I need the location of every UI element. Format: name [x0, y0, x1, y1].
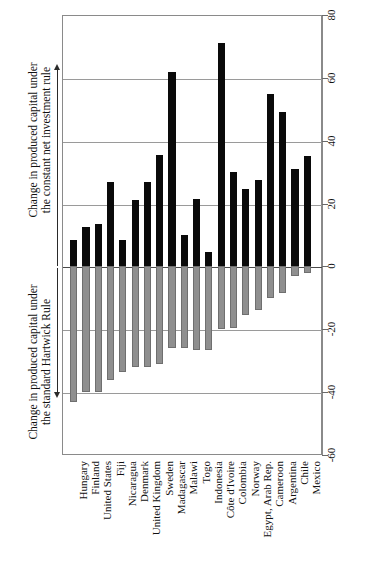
y-axis-tick-label-wrap: 40 [331, 141, 332, 142]
bar-negative [291, 266, 298, 275]
y-axis-tick-label: -40 [325, 385, 337, 400]
bar-group [82, 15, 89, 455]
bar-negative [144, 266, 151, 367]
bar-group [70, 15, 77, 455]
category-label-wrap: Indonesia [213, 461, 214, 462]
bar-negative [242, 266, 249, 315]
y-axis-title-bottom-line1: Change in produced capital under [27, 284, 39, 439]
bar-negative [82, 266, 89, 392]
bar-positive [107, 182, 114, 267]
bar-group [242, 15, 249, 455]
bar-negative [230, 266, 237, 327]
category-label: Indonesia [213, 461, 224, 504]
category-label: Nicaragua [127, 461, 138, 506]
y-axis-tick-label-wrap: 80 [331, 15, 332, 16]
bar-negative [107, 266, 114, 379]
bar-negative [218, 266, 225, 329]
y-axis-title-bottom-line2: the standard Hartwick Rule [40, 284, 53, 439]
category-label-wrap: United States [102, 461, 103, 462]
category-label-wrap: Chile [299, 461, 300, 462]
category-label-wrap: Côte d'Ivoire [225, 461, 226, 462]
bar-group [291, 15, 298, 455]
y-axis-title-bottom: Change in produced capital under the sta… [40, 362, 41, 363]
bar-negative [156, 266, 163, 363]
y-axis-line [322, 15, 323, 455]
category-label: Côte d'Ivoire [225, 461, 236, 518]
category-label: Madagascar [176, 461, 187, 514]
bar-positive [168, 72, 175, 267]
bar-positive [70, 240, 77, 267]
bar-positive [267, 94, 274, 267]
category-label: Hungary [78, 461, 89, 500]
y-axis-tick-label-wrap: 0 [331, 266, 332, 267]
y-axis-tick-label-wrap: 60 [331, 78, 332, 79]
bar-group [107, 15, 114, 455]
bar-group [205, 15, 212, 455]
y-axis-tick-label-wrap: -40 [331, 392, 332, 393]
y-axis-tick-label: -20 [325, 322, 337, 337]
bar-negative [205, 266, 212, 349]
bars-layer [62, 15, 322, 455]
category-label-wrap: Malawi [188, 461, 189, 462]
bar-negative [304, 266, 311, 272]
bar-group [267, 15, 274, 455]
bar-positive [144, 182, 151, 267]
y-axis-tick-label-wrap: -60 [331, 455, 332, 456]
bar-group [218, 15, 225, 455]
bar-positive [242, 189, 249, 266]
bar-positive [205, 252, 212, 266]
bar-negative [132, 266, 139, 367]
category-label: Togo [201, 461, 212, 483]
bar-chart-figure: Change in produced capital under the con… [0, 0, 365, 584]
category-label: United Kingdom [151, 461, 162, 535]
bar-group [156, 15, 163, 455]
category-label-wrap: Egypt, Arab Rep. [262, 461, 263, 462]
category-label-wrap: Nicaragua [127, 461, 128, 462]
category-label: United States [102, 461, 113, 520]
category-label-wrap: Colombia [237, 461, 238, 462]
bar-positive [218, 43, 225, 266]
y-axis-tick-label: 40 [325, 135, 337, 146]
bar-group [168, 15, 175, 455]
category-label-wrap: Cameroon [274, 461, 275, 462]
category-label: Norway [250, 461, 261, 496]
category-label-wrap: Fiji [115, 461, 116, 462]
category-label: Sweden [164, 461, 175, 496]
y-axis-tick-label: 60 [325, 72, 337, 83]
bar-positive [95, 224, 102, 266]
bar-negative [279, 266, 286, 293]
category-label-wrap: Mexico [311, 461, 312, 462]
category-label-wrap: Argentina [287, 461, 288, 462]
bar-positive [193, 199, 200, 267]
bar-positive [304, 156, 311, 266]
category-label-wrap: Hungary [78, 461, 79, 462]
bar-group [255, 15, 262, 455]
category-label: Malawi [188, 461, 199, 495]
category-label: Fiji [115, 461, 126, 476]
bar-positive [132, 200, 139, 266]
category-label: Denmark [139, 461, 150, 502]
bar-negative [193, 266, 200, 349]
category-label: Colombia [237, 461, 248, 504]
bar-group [230, 15, 237, 455]
y-axis-tick-label: 20 [325, 198, 337, 209]
bar-positive [82, 227, 89, 266]
y-axis-title-top-line2: the constant net investment rule [40, 62, 53, 217]
bar-negative [119, 266, 126, 371]
category-label-wrap: Madagascar [176, 461, 177, 462]
bar-group [193, 15, 200, 455]
bar-negative [95, 266, 102, 392]
bar-positive [230, 172, 237, 266]
bar-positive [156, 155, 163, 267]
category-label: Argentina [287, 461, 298, 505]
bar-negative [267, 266, 274, 297]
bar-group [181, 15, 188, 455]
category-label-wrap: Togo [201, 461, 202, 462]
category-label-wrap: Norway [250, 461, 251, 462]
bar-negative [255, 266, 262, 310]
y-axis-tick-label-wrap: -20 [331, 329, 332, 330]
y-axis-tick-label-wrap: 20 [331, 204, 332, 205]
bar-group [304, 15, 311, 455]
category-label-wrap: United Kingdom [151, 461, 152, 462]
category-label-wrap: Finland [90, 461, 91, 462]
